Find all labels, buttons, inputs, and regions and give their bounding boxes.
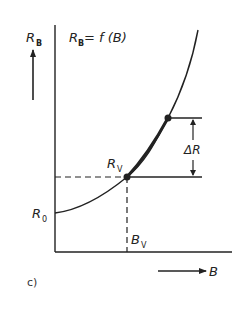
svg-text:R: R	[26, 30, 35, 45]
resistance-vs-field-diagram: R B R B = f (B) R 0 R V ΔR B V B	[0, 0, 244, 311]
upper-point	[165, 115, 172, 122]
working-range-segment	[127, 118, 168, 177]
svg-text:R: R	[107, 156, 116, 171]
svg-text:R: R	[32, 206, 41, 221]
svg-text:V: V	[117, 165, 123, 174]
svg-text:= f (B): = f (B)	[84, 30, 127, 45]
panel-label: c)	[27, 276, 37, 289]
r0-label: R 0	[32, 206, 47, 224]
x-axis-label: B	[209, 264, 218, 279]
svg-text:0: 0	[42, 215, 47, 224]
rv-label: R V	[107, 156, 123, 174]
svg-text:R: R	[69, 30, 78, 45]
y-axis-label: R B	[26, 30, 42, 48]
svg-text:V: V	[141, 241, 147, 250]
characteristic-curve	[55, 30, 198, 213]
svg-text:B: B	[36, 39, 42, 48]
svg-text:B: B	[131, 232, 140, 247]
function-equation: R B = f (B)	[69, 30, 127, 48]
delta-r-label: ΔR	[183, 143, 201, 157]
rv-operating-point	[124, 174, 131, 181]
bv-label: B V	[131, 232, 147, 250]
